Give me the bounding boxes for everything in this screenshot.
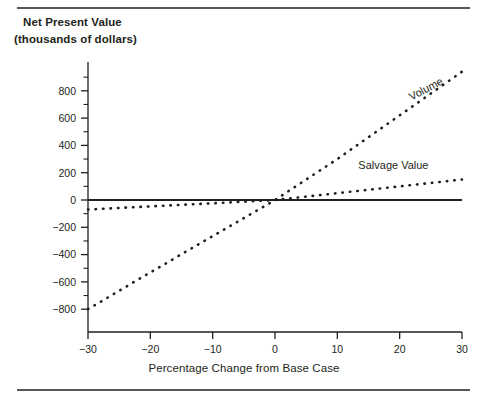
x-axis-tick-label: 30: [456, 343, 468, 355]
plot-area: 8006004002000−200−400−600−800 −30−20−100…: [0, 0, 488, 405]
figure-container: Net Present Value (thousands of dollars)…: [0, 0, 488, 405]
y-axis-tick-label: −600: [52, 276, 76, 288]
x-axis-tick-label: −20: [141, 343, 159, 355]
y-axis-tick-label: 600: [58, 112, 76, 124]
data-series-group: [88, 72, 462, 310]
x-axis-tick-label: 20: [394, 343, 406, 355]
x-axis: −30−20−100102030: [79, 332, 468, 355]
y-axis-tick-label: −400: [52, 248, 76, 260]
series-line-volume: [88, 72, 462, 310]
y-axis: 8006004002000−200−400−600−800: [52, 62, 88, 332]
x-axis-title: Percentage Change from Base Case: [0, 362, 488, 374]
y-axis-tick-label: 200: [58, 167, 76, 179]
series-line-salvage-value: [88, 180, 462, 210]
y-axis-tick-label: 400: [58, 139, 76, 151]
series-annotations: VolumeSalvage Value: [358, 75, 444, 171]
y-axis-tick-label: 0: [70, 194, 76, 206]
x-axis-tick-label: 0: [272, 343, 278, 355]
series-label-salvage-value: Salvage Value: [358, 159, 428, 171]
y-axis-tick-label: −200: [52, 221, 76, 233]
x-axis-tick-label: −30: [79, 343, 97, 355]
x-axis-tick-label: 10: [331, 343, 343, 355]
y-axis-tick-label: 800: [58, 85, 76, 97]
y-axis-tick-label: −800: [52, 303, 76, 315]
x-axis-tick-label: −10: [204, 343, 222, 355]
